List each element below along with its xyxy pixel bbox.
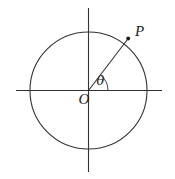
point-p-label: P bbox=[134, 23, 144, 39]
origin-o-label: O bbox=[79, 91, 90, 107]
point-p-marker bbox=[126, 37, 130, 41]
radius-op-line bbox=[89, 39, 129, 91]
unit-circle-figure: P θ O bbox=[0, 0, 175, 179]
angle-theta-label: θ bbox=[97, 73, 105, 88]
unit-circle-canvas: P θ O bbox=[0, 0, 175, 179]
